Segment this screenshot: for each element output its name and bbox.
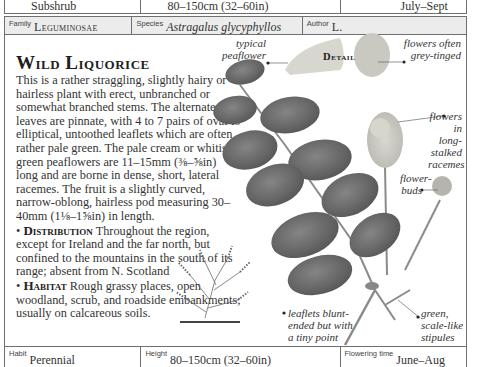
annotation-line: flowers (428, 110, 462, 122)
habit-strip: Habit Perennial Height 80–150cm (32–60in… (4, 346, 467, 367)
annotation-line: flowers often (398, 37, 461, 49)
annotation-line: in long- (428, 122, 462, 146)
annotation-line: stipules (421, 331, 465, 343)
detail-label: Detail (323, 51, 355, 62)
annotation-line: a tiny point (288, 331, 368, 343)
annotation-line: ended but with (288, 319, 368, 331)
annotation-line: leaflets blunt- (288, 307, 368, 319)
height-label: Height (145, 349, 167, 358)
leaflets (211, 55, 409, 302)
annotation-leaflets: leaflets blunt- ended but with a tiny po… (288, 307, 368, 343)
habit-label: Habit (9, 349, 27, 358)
flower-raceme (367, 112, 403, 168)
annotation-flowers-grey: flowers often grey-tinged (398, 37, 461, 61)
annotation-stipules: green, scale-like stipules (421, 307, 465, 343)
annotation-line: grey-tinged (398, 49, 461, 61)
flowering-value: June–Aug (396, 354, 445, 366)
flowering-cell: Flowering time June–Aug (341, 347, 466, 367)
height-cell: Height 80–150cm (32–60in) (141, 347, 340, 367)
annotation-line: typical (222, 37, 266, 49)
annotation-line: stalked (428, 146, 462, 158)
stipules (365, 282, 379, 290)
annotation-flowers-racemes: flowers in long- stalked racemes (428, 110, 462, 170)
height-value: 80–150cm (32–60in) (170, 354, 271, 366)
annotation-line: scale-like (421, 319, 465, 331)
habit-value: Perennial (30, 354, 75, 366)
annotation-line: flower- (400, 172, 422, 184)
habit-cell: Habit Perennial (5, 347, 141, 367)
annotation-line: racemes (428, 158, 462, 170)
annotation-line: green, (421, 307, 465, 319)
flower-bud (432, 176, 452, 196)
habit-sketch (176, 246, 250, 322)
flowering-label: Flowering time (345, 349, 394, 358)
annotation-flower-buds: flower- buds (400, 172, 422, 196)
annotation-line: peaflower (222, 49, 266, 61)
annotation-typical-peaflower: typical peaflower (222, 37, 266, 61)
annotation-line: buds (400, 184, 422, 196)
